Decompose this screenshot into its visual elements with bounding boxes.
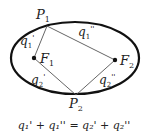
label-f1: F1	[39, 51, 54, 68]
label-f2: F2	[119, 53, 134, 70]
label-p2: P2	[68, 96, 83, 113]
equation: q₁' + q₁'' = q₂' + q₂''	[18, 119, 131, 132]
label-q1-prime: q1'	[20, 33, 34, 50]
ellipse-diagram: P1 F1 F2 P2 q1' q1'' q2' q2'' q₁' + q₁''…	[0, 0, 148, 139]
segment-q2-double-prime	[76, 60, 115, 95]
label-p1: P1	[35, 7, 50, 24]
focus-f2-dot	[113, 58, 117, 62]
focus-f1-dot	[32, 56, 36, 60]
label-q1-double-prime: q1''	[78, 24, 95, 41]
label-q2-prime: q2'	[31, 72, 45, 89]
